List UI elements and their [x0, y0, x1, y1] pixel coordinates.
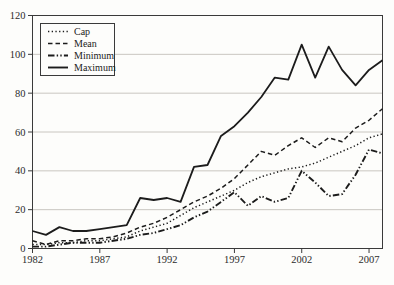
- legend-label-mean: Mean: [74, 38, 97, 49]
- y-tick-label-0: 0: [20, 243, 25, 254]
- y-tick-label-20: 20: [15, 204, 26, 215]
- x-tick-label-2007: 2007: [359, 254, 380, 265]
- y-tick-label-40: 40: [15, 165, 26, 176]
- mean-line-sample-icon: [47, 39, 69, 48]
- legend-label-cap: Cap: [74, 26, 90, 37]
- legend: Cap Mean Minimum Maximum: [40, 23, 115, 76]
- maximum-line-sample-icon: [47, 63, 69, 72]
- legend-item-minimum: Minimum: [47, 50, 112, 61]
- cap-line-sample-icon: [47, 27, 69, 36]
- legend-item-maximum: Maximum: [47, 62, 112, 73]
- x-tick-label-1982: 1982: [22, 254, 43, 265]
- y-tick-label-100: 100: [10, 49, 26, 60]
- minimum-line-sample-icon: [47, 51, 69, 60]
- x-tick-label-1992: 1992: [157, 254, 178, 265]
- y-tick-label-120: 120: [10, 10, 26, 21]
- y-tick-label-80: 80: [15, 88, 26, 99]
- x-tick-label-1987: 1987: [89, 254, 110, 265]
- series-line-cap: [33, 134, 383, 245]
- y-tick-label-60: 60: [15, 127, 26, 138]
- legend-label-minimum: Minimum: [74, 50, 114, 61]
- x-tick-label-2002: 2002: [291, 254, 312, 265]
- legend-item-cap: Cap: [47, 26, 112, 37]
- y-gridlines: [33, 54, 383, 209]
- series-line-mean: [33, 109, 383, 245]
- legend-label-maximum: Maximum: [74, 62, 116, 73]
- figure: 020406080100120198219871992199720022007 …: [0, 0, 394, 285]
- legend-item-mean: Mean: [47, 38, 112, 49]
- x-tick-label-1997: 1997: [224, 254, 245, 265]
